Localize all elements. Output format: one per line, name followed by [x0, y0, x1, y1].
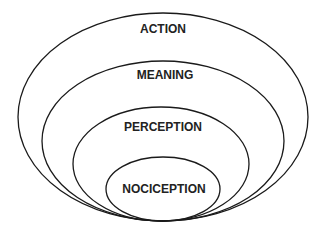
ellipse-meaning [42, 61, 284, 221]
label-perception: PERCEPTION [124, 120, 202, 134]
label-meaning: MEANING [137, 68, 194, 82]
label-nociception: NOCICEPTION [122, 182, 205, 196]
nested-ellipse-diagram: ACTION MEANING PERCEPTION NOCICEPTION [0, 0, 323, 233]
label-action: ACTION [140, 22, 186, 36]
